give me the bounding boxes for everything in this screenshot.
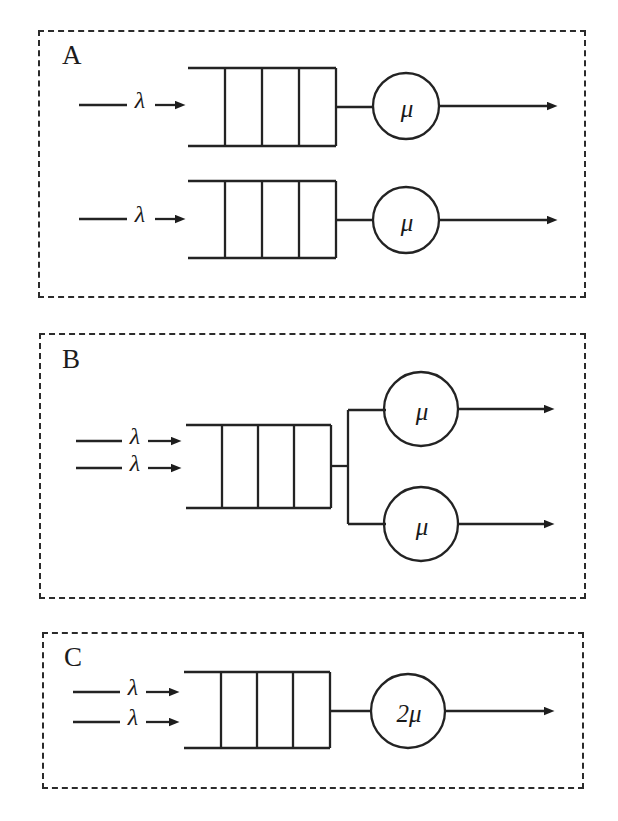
diagram-vector-layer [0,0,618,821]
arrival-label-a1: λ [135,88,145,112]
panel-b-flow [76,372,545,561]
queue-a2 [188,181,336,258]
arrival-label-b1: λ [130,424,140,448]
queue-a1 [188,68,336,146]
panel-a-row-1 [79,68,548,146]
server-label-a2: μ [401,210,414,235]
server-label-c: 2μ [396,701,421,726]
queue-c [184,672,330,748]
panel-a-row-2 [79,181,548,258]
figure-canvas: A B C [0,0,618,821]
server-label-b1: μ [416,399,429,424]
arrival-label-a2: λ [135,202,145,226]
server-label-b2: μ [416,514,429,539]
arrival-label-c2: λ [128,705,138,729]
arrival-label-b2: λ [130,451,140,475]
queue-b [186,425,331,508]
server-label-a1: μ [401,96,414,121]
arrival-label-c1: λ [128,675,138,699]
panel-c-flow [73,672,545,748]
